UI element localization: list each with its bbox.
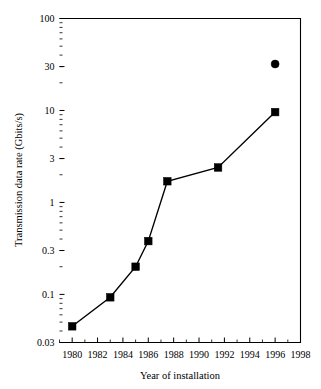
- data-point-square: [132, 263, 140, 271]
- x-tick-label: 1984: [113, 349, 133, 360]
- y-tick-label: 30: [45, 61, 55, 72]
- x-tick-label: 1980: [62, 349, 82, 360]
- y-tick-label: 0.3: [42, 245, 55, 256]
- x-tick-label: 1994: [240, 349, 260, 360]
- data-point-square: [271, 108, 279, 116]
- x-tick-label: 1986: [138, 349, 158, 360]
- chart-figure: 0.030.10.3131030100 19801982198419861988…: [0, 0, 321, 389]
- y-axis-title: Transmission data rate (Gbits/s): [13, 112, 25, 247]
- y-tick-label: 0.1: [42, 289, 55, 300]
- data-point-square: [106, 294, 114, 302]
- y-tick-label: 100: [40, 13, 55, 24]
- y-tick-label: 3: [50, 153, 55, 164]
- x-tick-label: 1990: [189, 349, 209, 360]
- x-axis-title: Year of installation: [140, 370, 221, 381]
- data-point-square: [164, 177, 172, 185]
- data-point-square: [68, 323, 76, 331]
- x-tick-label: 1998: [291, 349, 311, 360]
- y-tick-label: 10: [45, 105, 55, 116]
- data-point-square: [144, 237, 152, 245]
- data-point-square: [214, 164, 222, 172]
- x-tick-label: 1992: [214, 349, 234, 360]
- transmission-rate-log-chart: 0.030.10.3131030100 19801982198419861988…: [0, 0, 321, 389]
- x-tick-label: 1988: [164, 349, 184, 360]
- chart-background: [0, 0, 321, 389]
- x-tick-label: 1996: [265, 349, 285, 360]
- y-tick-label: 0.03: [37, 337, 55, 348]
- y-tick-label: 1: [50, 197, 55, 208]
- x-tick-label: 1982: [88, 349, 108, 360]
- data-point-circle: [271, 60, 279, 68]
